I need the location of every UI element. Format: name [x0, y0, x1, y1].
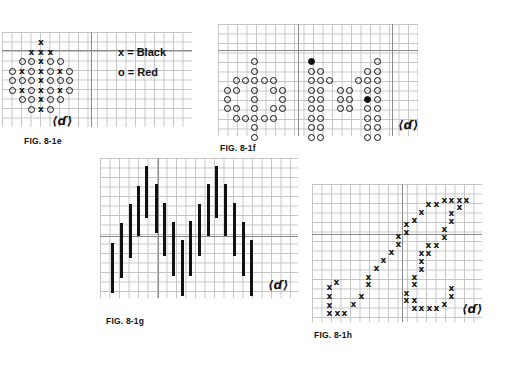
- circle-mark: [279, 105, 286, 112]
- circle-mark: [279, 96, 286, 103]
- x-mark-black: x: [18, 67, 27, 76]
- x-mark: x: [387, 248, 396, 257]
- circle-mark: [364, 124, 371, 131]
- circle-mark: [364, 87, 371, 94]
- x-mark: x: [402, 228, 411, 237]
- circle-mark: [308, 115, 315, 122]
- o-mark-red: [19, 77, 26, 84]
- circle-mark: [308, 134, 315, 141]
- figure-caption: FIG. 8-1e: [24, 136, 62, 146]
- x-mark: x: [379, 256, 388, 265]
- circle-mark: [242, 77, 249, 84]
- circle-mark: [224, 96, 231, 103]
- o-mark-red: [57, 96, 64, 103]
- o-mark-red: [9, 77, 16, 84]
- x-mark: x: [349, 300, 358, 309]
- o-mark-red: [47, 87, 54, 94]
- circle-mark: [233, 77, 240, 84]
- circle-mark: [317, 96, 324, 103]
- circle-mark: [308, 87, 315, 94]
- legend-black: x = Black: [118, 46, 166, 58]
- o-mark-red: [57, 58, 64, 65]
- x-mark-black: x: [56, 67, 65, 76]
- circle-mark: [317, 87, 324, 94]
- x-mark: x: [432, 241, 441, 250]
- circle-mark: [374, 115, 381, 122]
- circle-mark: [337, 105, 344, 112]
- x-mark: x: [440, 233, 449, 242]
- x-mark-black: x: [37, 105, 46, 114]
- circle-mark: [364, 115, 371, 122]
- vertical-bar: [137, 186, 140, 236]
- circle-mark: [308, 96, 315, 103]
- o-mark-red: [47, 96, 54, 103]
- circle-mark: [224, 87, 231, 94]
- circle-mark: [346, 87, 353, 94]
- o-mark-red: [28, 87, 35, 94]
- x-mark: x: [340, 309, 349, 318]
- o-mark-red: [19, 58, 26, 65]
- figure-caption: FIG. 8-1h: [314, 330, 352, 340]
- x-mark-black: x: [18, 86, 27, 95]
- circle-mark: [251, 124, 258, 131]
- circle-mark: [364, 134, 371, 141]
- x-mark-black: x: [37, 76, 46, 85]
- circle-mark: [308, 58, 315, 65]
- circle-mark: [317, 77, 324, 84]
- circle-mark: [308, 77, 315, 84]
- circle-mark: [364, 68, 371, 75]
- circle-mark: [308, 124, 315, 131]
- o-mark-red: [66, 77, 73, 84]
- o-mark-red: [66, 68, 73, 75]
- circle-mark: [251, 134, 258, 141]
- circle-mark: [308, 68, 315, 75]
- circle-mark: [270, 87, 277, 94]
- circle-mark: [224, 105, 231, 112]
- circle-mark: [270, 105, 277, 112]
- vertical-bar: [189, 221, 192, 276]
- circle-mark: [251, 58, 258, 65]
- x-mark: x: [447, 292, 456, 301]
- circle-mark: [374, 77, 381, 84]
- figure-8-1f: ⟨ɗ⟩ FIG. 8-1f: [218, 24, 418, 152]
- x-mark: x: [410, 216, 419, 225]
- circle-mark: [374, 105, 381, 112]
- vertical-bar: [215, 166, 218, 218]
- x-mark-black: x: [37, 95, 46, 104]
- figure-8-1h: xxxxxxxxxxxxxxxxxxxxxxxxxxxxxxxxxxxxxxxx…: [312, 184, 508, 359]
- o-mark-red: [28, 68, 35, 75]
- circle-mark: [374, 124, 381, 131]
- x-mark: x: [455, 203, 464, 212]
- circle-mark: [261, 77, 268, 84]
- o-mark-red: [47, 68, 54, 75]
- circle-mark: [261, 115, 268, 122]
- circle-mark: [374, 96, 381, 103]
- o-mark-red: [28, 58, 35, 65]
- circle-mark: [251, 115, 258, 122]
- x-mark: x: [447, 284, 456, 293]
- x-mark: x: [440, 300, 449, 309]
- vertical-bar: [120, 223, 123, 278]
- circle-mark: [242, 115, 249, 122]
- x-mark: x: [325, 292, 334, 301]
- circle-mark: [270, 77, 277, 84]
- vertical-bar: [198, 204, 201, 256]
- x-mark: x: [332, 278, 341, 287]
- x-mark: x: [364, 273, 373, 282]
- x-mark-black: x: [37, 38, 46, 47]
- vertical-bar: [129, 204, 132, 258]
- circle-mark: [251, 77, 258, 84]
- o-mark-red: [28, 96, 35, 103]
- x-mark: x: [394, 240, 403, 249]
- legend-red: o = Red: [118, 66, 158, 78]
- circle-mark: [374, 134, 381, 141]
- o-mark-red: [28, 106, 35, 113]
- circle-mark: [346, 105, 353, 112]
- circle-mark: [374, 58, 381, 65]
- vertical-bar: [242, 222, 245, 276]
- circle-mark: [251, 96, 258, 103]
- circle-mark: [326, 77, 333, 84]
- vertical-bar: [224, 184, 227, 236]
- vertical-bar: [155, 184, 158, 233]
- circle-mark: [279, 87, 286, 94]
